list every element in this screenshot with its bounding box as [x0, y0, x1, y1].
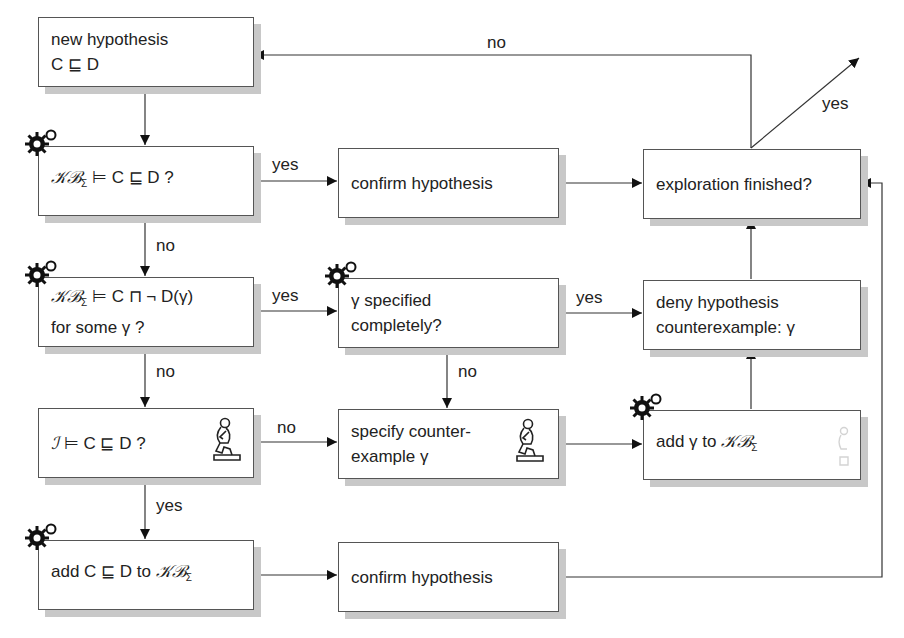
- edge-label-g-k: yes: [576, 288, 602, 308]
- confirm-hypothesis-top-box: confirm hypothesis: [338, 148, 559, 218]
- gear-icon: [24, 259, 60, 289]
- thinker-icon: [210, 417, 244, 461]
- kb-entails-formula: ⊨ C ⊑ D ?: [87, 168, 174, 187]
- confirm-hypothesis-text: confirm hypothesis: [351, 565, 558, 590]
- add-gamma-prefix: add γ to: [656, 432, 721, 451]
- add-gamma-text: add γ to 𝒦ℬΣ: [656, 429, 860, 460]
- new-hypothesis-title: new hypothesis: [51, 27, 253, 52]
- add-inclusion-to-kb-box: add C ⊑ D to 𝒦ℬΣ: [38, 540, 254, 610]
- edge-label-c-d: no: [156, 362, 175, 382]
- add-inclusion-prefix: add C ⊑ D to: [51, 562, 156, 581]
- gamma-specified-box: γ specified completely?: [338, 278, 559, 348]
- kb-counter-line2: for some γ ?: [51, 315, 253, 340]
- kb-symbol: 𝒦ℬ: [156, 562, 186, 581]
- faint-thinker-icon: [834, 425, 854, 469]
- kb-symbol: 𝒦ℬ: [51, 287, 81, 306]
- deny-hypothesis-box: deny hypothesis counterexample: γ: [643, 280, 861, 350]
- kb-subscript: Σ: [186, 573, 192, 584]
- add-inclusion-text: add C ⊑ D to 𝒦ℬΣ: [51, 559, 253, 590]
- new-hypothesis-box: new hypothesis C ⊑ D: [38, 17, 254, 87]
- deny-hypothesis-line2: counterexample: γ: [656, 315, 860, 340]
- edge-label-j-exit: yes: [822, 94, 848, 114]
- edge-label-d-e: yes: [156, 496, 182, 516]
- edge-label-j-a: no: [487, 33, 506, 53]
- edge-label-d-h: no: [277, 418, 296, 438]
- kb-counter-line1: 𝒦ℬΣ ⊨ C ⊓ ¬ D(γ): [51, 284, 253, 315]
- kb-entails-text: 𝒦ℬΣ ⊨ C ⊑ D ?: [51, 165, 253, 196]
- interpretation-symbol: ℐ: [51, 434, 59, 453]
- thinker-icon: [513, 418, 547, 462]
- kb-symbol: 𝒦ℬ: [721, 432, 751, 451]
- gear-icon: [24, 128, 60, 158]
- edge-label-c-g: yes: [272, 286, 298, 306]
- interp-formula: ⊨ C ⊑ D ?: [59, 434, 146, 453]
- kb-counterexample-box: 𝒦ℬΣ ⊨ C ⊓ ¬ D(γ) for some γ ?: [38, 277, 254, 347]
- kb-entails-box: 𝒦ℬΣ ⊨ C ⊑ D ?: [38, 146, 254, 216]
- deny-hypothesis-line1: deny hypothesis: [656, 290, 860, 315]
- edge-label-b-c: no: [156, 236, 175, 256]
- edge-label-b-f: yes: [272, 155, 298, 175]
- edge-label-g-h: no: [458, 362, 477, 382]
- kb-symbol: 𝒦ℬ: [51, 168, 81, 187]
- gamma-specified-line1: γ specified: [351, 288, 558, 313]
- add-gamma-to-kb-box: add γ to 𝒦ℬΣ: [643, 410, 861, 480]
- exploration-finished-text: exploration finished?: [656, 172, 860, 197]
- new-hypothesis-formula: C ⊑ D: [51, 52, 253, 77]
- gear-icon: [629, 392, 665, 422]
- gear-icon: [324, 260, 360, 290]
- confirm-hypothesis-bottom-box: confirm hypothesis: [338, 542, 559, 612]
- gear-icon: [24, 522, 60, 552]
- kb-counter-formula: ⊨ C ⊓ ¬ D(γ): [87, 287, 193, 306]
- confirm-hypothesis-text: confirm hypothesis: [351, 171, 558, 196]
- kb-subscript: Σ: [751, 443, 757, 454]
- gamma-specified-line2: completely?: [351, 313, 558, 338]
- exploration-finished-box: exploration finished?: [643, 149, 861, 219]
